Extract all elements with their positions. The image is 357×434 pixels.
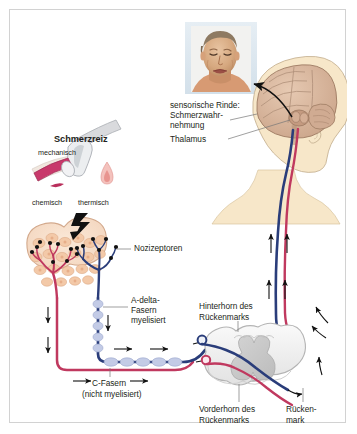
stimulus-title: Schmerzreiz: [54, 134, 108, 144]
a-delta-label-line2: Fasern: [131, 305, 157, 315]
cortex-label-line3: nehmung: [170, 120, 204, 130]
thalamus-label: Thalamus: [170, 134, 206, 144]
stimulus-thermal-label: thermisch: [78, 199, 109, 208]
stimulus-mechanical-label: mechanisch: [38, 149, 76, 158]
nociceptors-label: Nozizeptoren: [134, 243, 182, 253]
dorsal-horn-label-line2: Rückenmarks: [199, 312, 249, 322]
spinal-cord-label-line1: Rücken-: [286, 404, 317, 414]
dorsal-horn-label-line1: Hinterhorn des: [199, 301, 253, 311]
diagram-stage: Schmerzreiz mechanisch chemisch thermisc…: [10, 10, 347, 424]
c-fiber-label-line1: C-Fasern: [92, 378, 126, 388]
ventral-horn-label-line2: Rückenmarks: [199, 415, 249, 425]
pained-face-photo: [185, 22, 257, 94]
spinal-cord-label-line2: mark: [286, 415, 304, 425]
ventral-horn-label-line1: Vorderhorn des: [199, 404, 255, 414]
c-fiber-label-line2: (nicht myelisiert): [82, 389, 142, 399]
cortex-label-line2: Schmerzwahr-: [170, 110, 223, 120]
cortex-leader-line: [230, 114, 257, 120]
cortex-label-line1: sensorische Rinde:: [170, 100, 240, 110]
figure-frame: Schmerzreiz mechanisch chemisch thermisc…: [9, 9, 346, 423]
pain-pathway-illustration: [10, 10, 347, 424]
stimulus-chemical-label: chemisch: [32, 199, 62, 208]
spinal-cord-cross-section: [204, 323, 305, 385]
a-delta-label-line1: A-delta-: [131, 295, 160, 305]
tissue-cross-section: [27, 217, 118, 298]
a-delta-label-line3: myelisiert: [131, 315, 166, 325]
